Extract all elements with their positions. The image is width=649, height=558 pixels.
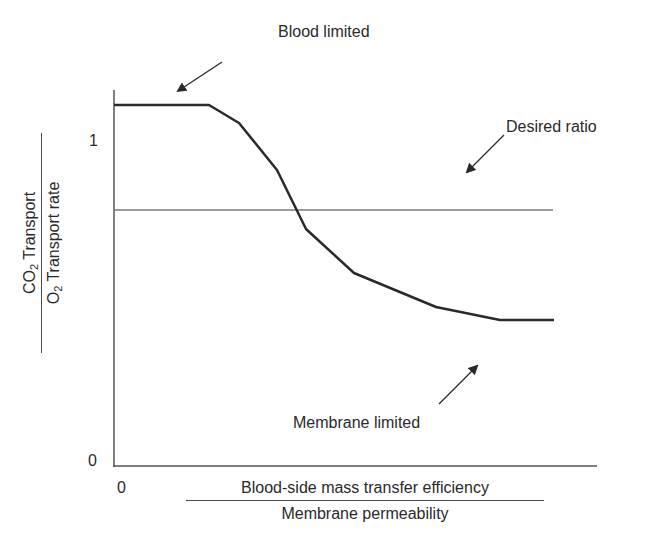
y-axis-label: CO2 Transport O2 Transport rate bbox=[20, 133, 64, 353]
x-tick-0: 0 bbox=[117, 479, 126, 497]
desired-ratio-label: Desired ratio bbox=[506, 118, 597, 136]
blood-limited-arrow-icon bbox=[178, 62, 222, 91]
x-axis-label: Blood-side mass transfer efficiency Memb… bbox=[186, 478, 544, 524]
transport-ratio-curve bbox=[114, 105, 554, 320]
y-tick-1: 1 bbox=[89, 132, 98, 150]
y-den-prefix: O bbox=[45, 292, 62, 304]
chart-figure: Blood limited Desired ratio Membrane lim… bbox=[0, 0, 649, 558]
y-axis-label-numerator: CO2 Transport bbox=[20, 133, 42, 353]
x-axis-label-numerator: Blood-side mass transfer efficiency bbox=[186, 478, 544, 501]
blood-limited-label: Blood limited bbox=[278, 23, 370, 41]
y-num-subscript: 2 bbox=[28, 264, 40, 270]
y-num-prefix: CO bbox=[21, 270, 38, 294]
chart-plot-area bbox=[0, 0, 649, 558]
membrane-limited-label: Membrane limited bbox=[293, 414, 420, 432]
y-den-subscript: 2 bbox=[52, 286, 64, 292]
y-den-suffix: Transport rate bbox=[45, 182, 62, 286]
x-axis-label-denominator: Membrane permeability bbox=[186, 501, 544, 524]
y-axis-label-denominator: O2 Transport rate bbox=[42, 133, 64, 353]
membrane-limited-arrow-icon bbox=[439, 366, 477, 404]
desired-ratio-arrow-icon bbox=[467, 135, 504, 172]
y-tick-0: 0 bbox=[88, 452, 97, 470]
y-num-suffix: Transport bbox=[21, 192, 38, 264]
